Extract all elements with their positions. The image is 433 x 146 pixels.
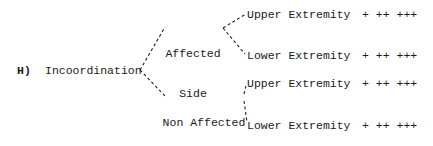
leaf-non-affected-lower-extremity: Lower Extremity	[247, 119, 351, 132]
branch-label-line1: Non Affected	[160, 116, 248, 129]
leaf-affected-upper-extremity: Upper Extremity	[247, 8, 351, 21]
severity-scale: + ++ +++	[362, 49, 417, 62]
severity-scale: + ++ +++	[362, 77, 417, 90]
leaf-affected-lower-extremity: Lower Extremity	[247, 49, 351, 62]
item-label: H)	[17, 64, 31, 77]
branch-label-line1: Affected	[160, 47, 226, 60]
severity-scale: + ++ +++	[362, 8, 417, 21]
branch-non-affected-side: Non Affected Side	[160, 90, 248, 146]
severity-scale: + ++ +++	[362, 119, 417, 132]
item-title: Incoordination	[45, 64, 142, 77]
leaf-non-affected-upper-extremity: Upper Extremity	[247, 77, 351, 90]
